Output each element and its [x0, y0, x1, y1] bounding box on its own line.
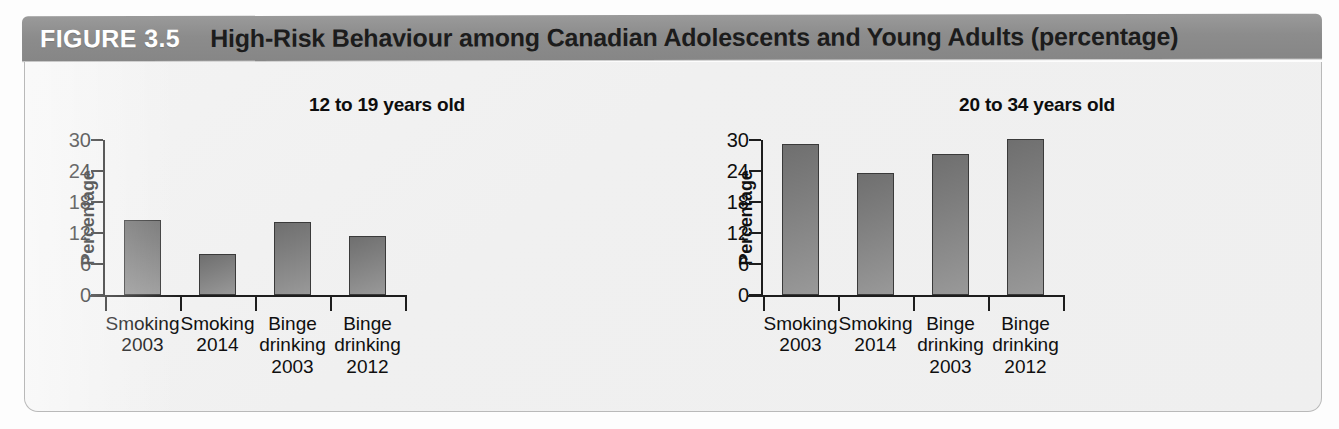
x-tick-mark-right	[988, 295, 990, 311]
chart-subtitle-left: 12 to 19 years old	[63, 94, 711, 116]
x-category-line: Binge	[978, 313, 1074, 334]
bar-left-1	[199, 254, 237, 295]
x-tick-mark-left	[180, 295, 182, 311]
y-tick-mark-left	[91, 294, 103, 296]
figure-title: High-Risk Behaviour among Canadian Adole…	[210, 22, 1178, 53]
x-tick-labels-right: Smoking2003Smoking2014Bingedrinking2003B…	[763, 313, 1061, 403]
bars-area-left	[105, 140, 403, 295]
x-tick-labels-left: Smoking2003Smoking2014Bingedrinking2003B…	[105, 313, 403, 403]
plot-area-left: Percentage 0612182430 Smoking2003Smoking…	[103, 140, 403, 295]
y-tick-label-right: 24	[727, 161, 749, 181]
x-category-line: drinking	[978, 334, 1074, 355]
figure-header-bar: FIGURE 3.5 High-Risk Behaviour among Can…	[22, 14, 1322, 62]
figure-number-label: FIGURE 3.5	[40, 24, 180, 53]
bar-left-3	[349, 236, 387, 295]
y-tick-label-right: 6	[738, 254, 749, 274]
x-tick-mark-right	[1063, 295, 1065, 311]
y-tick-label-right: 12	[727, 223, 749, 243]
bars-area-right	[763, 140, 1061, 295]
y-tick-mark-left	[91, 263, 103, 265]
x-tick-marks-left	[105, 295, 403, 311]
y-tick-label-left: 12	[69, 223, 91, 243]
y-tick-mark-left	[91, 201, 103, 203]
x-tick-mark-left	[255, 295, 257, 311]
x-category-line: 2012	[978, 356, 1074, 377]
figure-body-panel: 12 to 19 years old Percentage 0612182430…	[24, 62, 1322, 412]
y-tick-mark-left	[91, 139, 103, 141]
y-tick-label-left: 6	[80, 254, 91, 274]
x-category-label-left-3: Bingedrinking2012	[320, 313, 416, 377]
y-tick-label-left: 30	[69, 130, 91, 150]
y-tick-label-right: 30	[727, 130, 749, 150]
y-tick-mark-right	[749, 294, 761, 296]
y-tick-mark-right	[749, 232, 761, 234]
bar-right-3	[1007, 139, 1045, 295]
y-tick-labels-left: 0612182430	[51, 140, 91, 295]
y-tick-mark-right	[749, 201, 761, 203]
y-tick-mark-right	[749, 263, 761, 265]
y-tick-mark-left	[91, 232, 103, 234]
bar-left-2	[274, 222, 312, 295]
chart-panel-12-to-19: 12 to 19 years old Percentage 0612182430…	[25, 62, 673, 411]
chart-panel-20-to-34: 20 to 34 years old Percentage 0612182430…	[673, 62, 1321, 411]
y-tick-label-left: 24	[69, 161, 91, 181]
x-tick-mark-left	[405, 295, 407, 311]
x-tick-mark-right	[913, 295, 915, 311]
x-tick-mark-right	[838, 295, 840, 311]
x-category-line: drinking	[320, 334, 416, 355]
y-tick-label-right: 18	[727, 192, 749, 212]
x-tick-marks-right	[763, 295, 1061, 311]
x-tick-mark-right	[763, 295, 765, 311]
x-category-line: Binge	[320, 313, 416, 334]
chart-subtitle-right: 20 to 34 years old	[713, 94, 1339, 116]
x-tick-mark-left	[105, 295, 107, 311]
figure-container: FIGURE 3.5 High-Risk Behaviour among Can…	[0, 0, 1339, 429]
plot-area-right: Percentage 0612182430 Smoking2003Smoking…	[761, 140, 1061, 295]
x-tick-mark-left	[330, 295, 332, 311]
y-tick-mark-right	[749, 170, 761, 172]
bar-right-0	[782, 144, 820, 295]
x-category-line: 2012	[320, 356, 416, 377]
x-category-label-right-3: Bingedrinking2012	[978, 313, 1074, 377]
y-tick-mark-left	[91, 170, 103, 172]
y-tick-label-left: 18	[69, 192, 91, 212]
bar-right-2	[932, 154, 970, 295]
bar-left-0	[124, 220, 162, 295]
y-tick-mark-right	[749, 139, 761, 141]
charts-row: 12 to 19 years old Percentage 0612182430…	[25, 62, 1321, 411]
bar-right-1	[857, 173, 895, 295]
y-tick-labels-right: 0612182430	[709, 140, 749, 295]
